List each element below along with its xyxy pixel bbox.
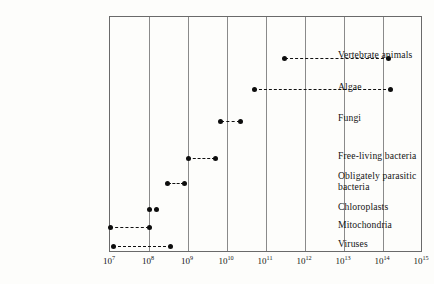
range-start-dot [218, 119, 223, 124]
category-label-text: Fungi [330, 113, 434, 124]
gridline-1e10 [227, 17, 228, 251]
range-marker [168, 183, 185, 184]
tick-label-1e11: 1011 [258, 256, 273, 266]
tick-label-1e7: 107 [103, 256, 115, 266]
range-start-dot [282, 56, 287, 61]
category-label: Fungi [330, 113, 434, 124]
range-marker [113, 246, 171, 247]
category-label-text: Vertebrate animals [330, 50, 434, 61]
category-label: Viruses [330, 239, 434, 250]
category-label: Chloroplasts [330, 202, 434, 213]
range-end-dot [168, 244, 173, 249]
tick-label-1e12: 1012 [296, 256, 311, 266]
tick-label-1e9: 109 [181, 256, 193, 266]
range-start-dot [252, 87, 257, 92]
tick-label-1e8: 108 [142, 256, 154, 266]
tick-label-1e13: 1013 [335, 256, 350, 266]
range-start-dot [165, 181, 170, 186]
category-label-text: Obligately parasitic bacteria [330, 171, 434, 192]
range-end-dot [238, 119, 243, 124]
range-marker [110, 227, 149, 228]
category-label-text: Algae [330, 82, 434, 93]
category-label-text: Chloroplasts [330, 202, 434, 213]
category-label: Mitochondria [330, 220, 434, 231]
range-line [110, 227, 149, 228]
category-label: Algae [330, 82, 434, 93]
range-line [188, 158, 215, 159]
tick-label-1e15: 1015 [413, 256, 428, 266]
range-line [113, 246, 171, 247]
range-start-dot [108, 225, 113, 230]
category-label: Free-living bacteria [330, 151, 434, 162]
gridline-1e9 [188, 17, 189, 251]
category-label: Vertebrate animals [330, 50, 434, 61]
range-marker [221, 121, 240, 122]
category-label-text: Mitochondria [330, 220, 434, 231]
range-start-dot [111, 244, 116, 249]
chart-page: Vertebrate animalsAlgaeFungiFree-living … [0, 0, 434, 284]
range-end-dot [147, 225, 152, 230]
gridline-1e12 [305, 17, 306, 251]
tick-label-1e14: 1014 [374, 256, 389, 266]
range-end-dot [154, 207, 159, 212]
tick-label-1e10: 1010 [218, 256, 233, 266]
category-label-text: Viruses [330, 239, 434, 250]
range-marker [188, 158, 215, 159]
range-end-dot [182, 181, 187, 186]
gridline-1e8 [149, 17, 150, 251]
range-end-dot [213, 156, 218, 161]
category-label-text: Free-living bacteria [330, 151, 434, 162]
category-label: Obligately parasitic bacteria [330, 171, 434, 192]
range-start-dot [147, 207, 152, 212]
range-marker [149, 209, 157, 210]
range-start-dot [186, 156, 191, 161]
gridline-1e11 [266, 17, 267, 251]
